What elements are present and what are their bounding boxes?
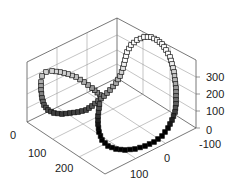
y-tick-100: 100 [130, 168, 148, 180]
plot-3d: 300 200 100 0 -100 0 100 0 100 200 [0, 0, 238, 186]
z-tick-200: 200 [206, 88, 224, 100]
z-tick-0: 0 [206, 124, 212, 136]
curve-marker [147, 142, 152, 147]
curve-marker [97, 102, 102, 107]
y-tick-neg100: -100 [199, 138, 221, 150]
curve-marker [50, 69, 55, 74]
curve-marker [40, 74, 45, 79]
x-tick-100: 100 [28, 147, 46, 159]
z-tick-300: 300 [206, 71, 224, 83]
x-tick-0: 0 [10, 129, 16, 141]
z-tick-100: 100 [206, 105, 224, 117]
curve-marker [152, 140, 157, 145]
y-tick-0: 0 [164, 152, 170, 164]
curve-marker [143, 144, 148, 149]
curve-marker [133, 147, 138, 152]
x-tick-200: 200 [55, 162, 73, 174]
curve-markers [39, 35, 179, 153]
z-axis-ticks [196, 77, 200, 128]
curve-marker [118, 147, 123, 152]
curve-marker [123, 148, 128, 153]
curve-marker [128, 147, 133, 152]
curve-marker [138, 145, 143, 150]
